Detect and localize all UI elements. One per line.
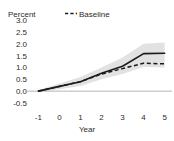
x-tick-label: 4 <box>141 113 146 122</box>
chart-container: Percent Baseline 3.02.52.01.51.00.50.0-0… <box>0 0 174 141</box>
y-tick-label: 0.5 <box>16 75 28 84</box>
y-tick-label: 2.0 <box>16 40 28 49</box>
x-tick-label: 5 <box>162 113 167 122</box>
line-chart: Percent Baseline 3.02.52.01.51.00.50.0-0… <box>0 0 174 141</box>
x-tick-label: 1 <box>78 113 83 122</box>
y-tick-label: -0.5 <box>13 99 27 108</box>
x-tick-label: 0 <box>57 113 62 122</box>
y-tick-label: 3.0 <box>16 16 28 25</box>
x-tick-label: 2 <box>99 113 104 122</box>
x-tick-label: 3 <box>120 113 125 122</box>
y-tick-label: 1.0 <box>16 63 28 72</box>
x-axis-title: Year <box>79 125 96 134</box>
legend-label-baseline: Baseline <box>79 10 110 19</box>
y-tick-label: 2.5 <box>16 28 28 37</box>
x-tick-label: -1 <box>35 113 43 122</box>
y-tick-label: 1.5 <box>16 52 28 61</box>
